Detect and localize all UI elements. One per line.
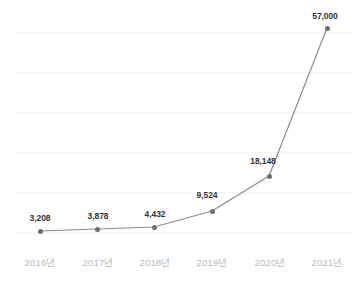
- data-point-marker[interactable]: [210, 209, 215, 214]
- x-axis-tick-label: 2018년: [139, 255, 170, 269]
- data-point-label: 18,148: [250, 156, 275, 166]
- data-line-svg: [0, 0, 364, 248]
- data-point-label: 3,878: [88, 211, 109, 221]
- data-point-marker[interactable]: [325, 26, 330, 31]
- data-point-marker[interactable]: [152, 225, 157, 230]
- plot-area: 3,2083,8784,4329,52418,14857,000: [0, 0, 364, 248]
- x-axis-tick-label: 2017년: [82, 255, 113, 269]
- data-point-marker[interactable]: [267, 174, 272, 179]
- data-line-path: [40, 28, 327, 231]
- data-point-label: 4,432: [145, 209, 166, 219]
- x-axis-tick-label: 2021년: [311, 255, 342, 269]
- data-point-label: 9,524: [197, 190, 218, 200]
- x-axis-tick-label: 2020년: [254, 255, 285, 269]
- data-point-label: 57,000: [312, 11, 337, 21]
- data-series-layer: 3,2083,8784,4329,52418,14857,000: [0, 0, 364, 248]
- data-point-label: 3,208: [30, 213, 51, 223]
- data-point-marker[interactable]: [38, 229, 43, 234]
- x-axis-tick-label: 2016년: [24, 255, 55, 269]
- x-axis-tick-label: 2019년: [196, 255, 227, 269]
- line-chart-figure: 3,2083,8784,4329,52418,14857,000 2016년20…: [0, 0, 364, 283]
- data-point-marker[interactable]: [95, 227, 100, 232]
- x-axis: 2016년2017년2018년2019년2020년2021년: [0, 248, 364, 283]
